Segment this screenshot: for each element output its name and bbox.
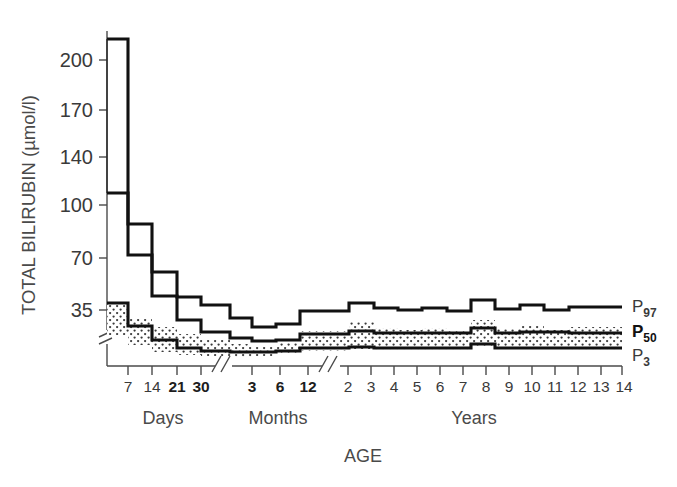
bilirubin-percentile-chart: TOTAL BILIRUBIN (µmol/l) 200 170 140 100… (0, 0, 677, 487)
y-tick-label-100: 100 (60, 194, 93, 216)
p97-curve (107, 39, 622, 327)
x-tick-month-3: 3 (248, 378, 257, 395)
x-tick-month-12: 12 (299, 378, 316, 395)
y-axis-title: TOTAL BILIRUBIN (µmol/l) (18, 95, 39, 315)
x-axis-title-text: AGE (344, 446, 382, 466)
y-tick-label-200: 200 (60, 49, 93, 71)
x-group-label-years: Years (451, 408, 496, 428)
x-tick-year-4: 4 (390, 378, 399, 395)
legend-p50-base: P (632, 322, 643, 341)
x-tick-year-14: 14 (615, 378, 633, 395)
legend-p97-base: P (632, 297, 643, 316)
x-tick-year-8: 8 (482, 378, 491, 395)
y-axis: 200 170 140 100 70 35 (60, 31, 112, 366)
chart-svg: TOTAL BILIRUBIN (µmol/l) 200 170 140 100… (0, 0, 677, 487)
x-group-labels: Days Months Years (142, 408, 496, 428)
x-tick-year-13: 13 (592, 378, 609, 395)
y-tick-label-140: 140 (60, 146, 93, 168)
x-tick-year-3: 3 (367, 378, 376, 395)
x-tick-year-12: 12 (569, 378, 586, 395)
x-group-label-days: Days (142, 408, 183, 428)
x-tick-year-9: 9 (505, 378, 514, 395)
legend-p3-base: P (632, 346, 643, 365)
x-tick-year-10: 10 (523, 378, 541, 395)
x-tick-year-5: 5 (413, 378, 422, 395)
y-tick-label-170: 170 (60, 99, 93, 121)
x-tick-year-7: 7 (459, 378, 468, 395)
x-tick-year-11: 11 (547, 378, 563, 395)
x-axis: 7 14 21 30 3 6 12 2 3 4 5 6 7 8 9 10 11 … (107, 356, 633, 395)
x-group-label-months: Months (248, 408, 307, 428)
x-tick-year-6: 6 (436, 378, 445, 395)
legend-p50: P50 (632, 322, 657, 345)
legend-p97: P97 (632, 297, 657, 320)
legend-p50-sub: 50 (643, 331, 657, 345)
y-tick-label-35: 35 (71, 299, 93, 321)
legend-p97-sub: 97 (643, 306, 657, 320)
legend-p3-sub: 3 (643, 355, 650, 369)
percentile-legend: P97 P50 P3 (632, 297, 657, 369)
y-tick-label-70: 70 (71, 247, 93, 269)
p50-curve (107, 193, 622, 341)
x-tick-day-30: 30 (192, 378, 209, 395)
x-tick-day-14: 14 (143, 378, 161, 395)
legend-p3: P3 (632, 346, 650, 369)
x-tick-year-2: 2 (344, 378, 353, 395)
x-tick-month-6: 6 (276, 378, 285, 395)
x-tick-day-21: 21 (168, 378, 186, 395)
x-tick-day-7: 7 (124, 378, 133, 395)
y-axis-title-text: TOTAL BILIRUBIN (µmol/l) (18, 95, 39, 315)
